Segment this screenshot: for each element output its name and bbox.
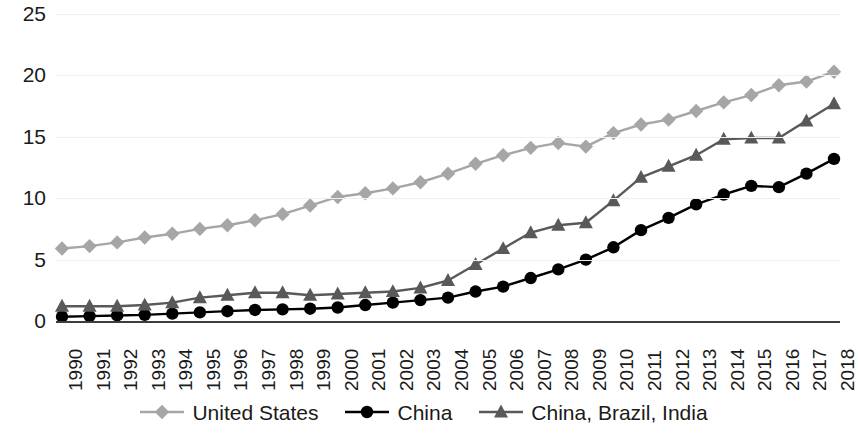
x-axis-tick-label: 2012 — [673, 367, 692, 391]
data-point-marker — [634, 117, 648, 131]
data-point-marker — [387, 296, 399, 308]
x-axis-line — [56, 321, 840, 323]
x-axis-tick-label: 2000 — [342, 367, 361, 391]
x-axis-tick-label: 2016 — [783, 367, 802, 391]
y-axis-tick-label: 25 — [0, 3, 46, 24]
x-axis-tick-label: 1990 — [66, 367, 85, 391]
x-axis-tick-label: 1991 — [94, 367, 113, 391]
x-axis-tick-label: 2006 — [507, 367, 526, 391]
legend-item-china[interactable]: China — [344, 402, 452, 423]
y-axis-tick-label: 0 — [0, 310, 46, 331]
data-point-marker — [551, 136, 565, 150]
data-point-marker — [386, 181, 400, 195]
legend-marker-diamond-icon — [139, 403, 185, 421]
data-point-marker — [607, 241, 619, 253]
data-point-marker — [221, 305, 233, 317]
data-point-marker — [800, 167, 812, 179]
x-axis-tick-label: 2004 — [452, 367, 471, 391]
data-point-marker — [55, 241, 69, 255]
x-axis-tick-label: 1996 — [231, 367, 250, 391]
x-axis-tick-label: 2009 — [590, 367, 609, 391]
data-point-marker — [276, 303, 288, 315]
legend-item-china-brazil-india[interactable]: China, Brazil, India — [478, 402, 707, 423]
data-point-marker — [138, 230, 152, 244]
series-china-brazil-india — [55, 96, 841, 312]
x-axis-tick-label: 1997 — [259, 367, 278, 391]
data-point-marker — [194, 306, 206, 318]
data-point-marker — [689, 104, 703, 118]
x-axis-tick-label: 2007 — [535, 367, 554, 391]
x-axis-tick-label: 2013 — [700, 367, 719, 391]
chart-legend: United StatesChinaChina, Brazil, India — [0, 395, 847, 429]
legend-marker-circle-icon — [344, 403, 390, 421]
data-point-marker — [304, 303, 316, 315]
x-axis-tick-label: 1992 — [121, 367, 140, 391]
data-point-marker — [496, 241, 510, 254]
x-axis-tick-label: 2018 — [838, 367, 857, 391]
data-point-marker — [331, 190, 345, 204]
series-layer — [56, 14, 840, 321]
data-point-marker — [332, 301, 344, 313]
data-point-marker — [799, 74, 813, 88]
data-point-marker — [166, 307, 178, 319]
data-point-marker — [442, 291, 454, 303]
data-point-marker — [827, 96, 841, 109]
data-point-marker — [413, 175, 427, 189]
gridline — [56, 198, 840, 199]
x-axis-tick-label: 2008 — [562, 367, 581, 391]
x-axis-tick-labels: 1990199119921993199419951996199719981999… — [56, 325, 840, 391]
x-axis-tick-label: 2003 — [424, 367, 443, 391]
gridline — [56, 75, 840, 76]
data-point-marker — [828, 153, 840, 165]
x-axis-tick-label: 1999 — [314, 367, 333, 391]
data-point-marker — [661, 112, 675, 126]
data-point-marker — [689, 148, 703, 161]
data-point-marker — [359, 299, 371, 311]
data-point-marker — [799, 113, 813, 126]
series-line — [62, 72, 834, 249]
x-axis-tick-label: 2011 — [645, 367, 664, 391]
x-axis-tick-label: 1994 — [176, 367, 195, 391]
data-point-marker — [82, 239, 96, 253]
data-point-marker — [717, 95, 731, 109]
x-axis-tick-label: 1998 — [287, 367, 306, 391]
data-point-marker — [772, 78, 786, 92]
gridline — [56, 260, 840, 261]
x-axis-tick-label: 2010 — [617, 367, 636, 391]
plot-area — [56, 14, 840, 321]
y-axis-tick-label: 20 — [0, 64, 46, 85]
data-point-marker — [497, 280, 509, 292]
x-axis-tick-label: 2015 — [755, 367, 774, 391]
data-point-marker — [745, 180, 757, 192]
data-point-marker — [773, 181, 785, 193]
data-point-marker — [249, 304, 261, 316]
data-point-marker — [155, 405, 169, 419]
legend-marker-triangle-icon — [478, 403, 524, 421]
data-point-marker — [441, 166, 455, 180]
data-point-marker — [662, 212, 674, 224]
legend-item-united-states[interactable]: United States — [139, 402, 318, 423]
gridline — [56, 14, 840, 15]
data-point-marker — [414, 294, 426, 306]
data-point-marker — [275, 207, 289, 221]
data-point-marker — [110, 235, 124, 249]
data-point-marker — [165, 227, 179, 241]
data-point-marker — [744, 88, 758, 102]
data-point-marker — [361, 406, 373, 418]
y-axis-tick-label: 5 — [0, 249, 46, 270]
x-axis-tick-label: 2014 — [728, 367, 747, 391]
data-point-marker — [606, 126, 620, 140]
x-axis-tick-label: 2005 — [480, 367, 499, 391]
data-point-marker — [635, 224, 647, 236]
data-point-marker — [552, 263, 564, 275]
data-point-marker — [524, 141, 538, 155]
data-point-marker — [469, 285, 481, 297]
data-point-marker — [468, 157, 482, 171]
x-axis-tick-label: 2017 — [810, 367, 829, 391]
y-axis-tick-label: 10 — [0, 187, 46, 208]
x-axis-tick-label: 1995 — [204, 367, 223, 391]
legend-label: United States — [192, 402, 318, 423]
legend-label: China — [397, 402, 452, 423]
data-point-marker — [193, 222, 207, 236]
